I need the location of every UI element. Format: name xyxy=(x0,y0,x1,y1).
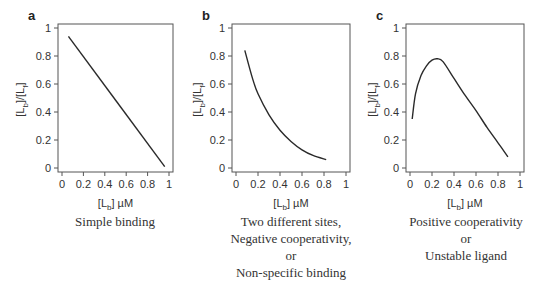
x-tick-label: 0 xyxy=(233,178,239,190)
y-tick-label: 1 xyxy=(219,22,225,34)
panel-caption: Two different sites, Negative cooperativ… xyxy=(211,213,371,281)
x-axis-label: [Lb] µM xyxy=(232,197,350,212)
x-tick-label: 1 xyxy=(166,178,172,190)
x-tick-label: 1 xyxy=(517,178,523,190)
y-tick-label: 1 xyxy=(393,22,399,34)
panel-caption: Positive cooperativity or Unstable ligan… xyxy=(386,213,544,264)
x-tick-label: 0 xyxy=(407,178,413,190)
y-tick-label: 1 xyxy=(45,22,51,34)
x-tick-label: 0.8 xyxy=(490,178,505,190)
x-tick-label: 0.4 xyxy=(97,178,112,190)
plot-frame xyxy=(232,24,350,172)
panel-b: b [Lb]/[Lf] 00.20.40.60.8100.20.40.60.81… xyxy=(175,0,360,282)
x-tick-label: 0.4 xyxy=(446,178,461,190)
y-tick-label: 0.8 xyxy=(384,50,399,62)
data-line xyxy=(412,59,508,157)
x-axis-label: [Lb] µM xyxy=(58,197,173,212)
x-tick-label: 0.2 xyxy=(250,178,265,190)
x-tick-label: 0.6 xyxy=(294,178,309,190)
chart-plot: 00.20.40.60.8100.20.40.60.81 xyxy=(0,0,185,200)
y-tick-label: 0.2 xyxy=(210,134,225,146)
y-tick-label: 0.8 xyxy=(210,50,225,62)
x-tick-label: 0 xyxy=(59,178,65,190)
panel-a: a [Lb]/[Lf] 00.20.40.60.8100.20.40.60.81… xyxy=(0,0,185,282)
x-tick-label: 0.2 xyxy=(424,178,439,190)
y-tick-label: 0.4 xyxy=(384,106,399,118)
y-tick-label: 0.6 xyxy=(210,78,225,90)
y-tick-label: 0 xyxy=(219,162,225,174)
x-tick-label: 0.8 xyxy=(316,178,331,190)
x-axis-label: [Lb] µM xyxy=(406,197,524,212)
y-tick-label: 0 xyxy=(393,162,399,174)
x-tick-label: 0.6 xyxy=(468,178,483,190)
x-tick-label: 0.2 xyxy=(76,178,91,190)
chart-plot: 00.20.40.60.8100.20.40.60.81 xyxy=(175,0,360,200)
y-tick-label: 0.8 xyxy=(36,50,51,62)
y-tick-label: 0.4 xyxy=(210,106,225,118)
y-tick-label: 0.2 xyxy=(384,134,399,146)
chart-plot: 00.20.40.60.8100.20.40.60.81 xyxy=(350,0,544,200)
data-line xyxy=(68,36,164,166)
y-tick-label: 0.6 xyxy=(384,78,399,90)
x-tick-label: 0.4 xyxy=(272,178,287,190)
plot-frame xyxy=(406,24,524,172)
panel-caption: Simple binding xyxy=(40,213,190,230)
x-tick-label: 0.8 xyxy=(140,178,155,190)
x-tick-label: 1 xyxy=(343,178,349,190)
y-tick-label: 0 xyxy=(45,162,51,174)
y-tick-label: 0.4 xyxy=(36,106,51,118)
y-tick-label: 0.6 xyxy=(36,78,51,90)
panel-c: c [Lb]/[Lf] 00.20.40.60.8100.20.40.60.81… xyxy=(350,0,544,282)
x-tick-label: 0.6 xyxy=(119,178,134,190)
data-line xyxy=(245,50,326,159)
y-tick-label: 0.2 xyxy=(36,134,51,146)
